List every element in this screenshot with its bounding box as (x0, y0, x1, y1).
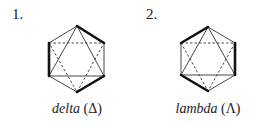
delta-caption: delta (Δ) (17, 101, 137, 117)
delta-symbol: (Δ) (84, 101, 102, 116)
delta-octahedron (49, 26, 104, 92)
lambda-caption: lambda (Λ) (148, 101, 256, 117)
lambda-symbol: (Λ) (221, 101, 240, 116)
delta-name: delta (52, 101, 80, 116)
lambda-name: lambda (176, 101, 218, 116)
lambda-octahedron (181, 27, 235, 91)
